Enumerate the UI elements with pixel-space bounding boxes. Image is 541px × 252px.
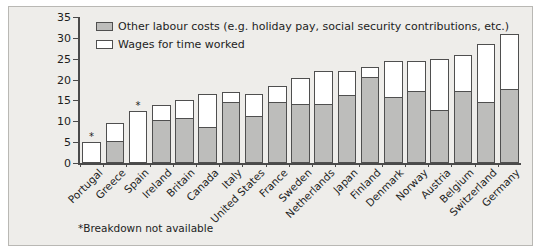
bar-segment-other-labour-costs xyxy=(384,98,403,163)
y-axis-tick-mark xyxy=(73,100,78,101)
y-axis-tick-mark xyxy=(73,163,78,164)
bar-segment-other-labour-costs xyxy=(198,128,217,163)
y-axis-tick-label: 30 xyxy=(57,32,71,43)
y-axis-tick-label: 20 xyxy=(57,74,71,85)
bar-segment-other-labour-costs xyxy=(477,103,496,163)
chart-figure: Other labour costs (e.g. holiday pay, so… xyxy=(0,0,541,252)
bar-segment-wages-for-time-worked xyxy=(407,61,426,92)
bar-sweden xyxy=(291,78,310,164)
x-axis-line xyxy=(78,163,521,165)
bar-segment-wages-for-time-worked xyxy=(338,71,357,96)
bar-netherlands xyxy=(314,71,333,163)
bar-segment-other-labour-costs xyxy=(407,92,426,163)
y-axis-tick-label: 35 xyxy=(57,12,71,23)
bar-segment-other-labour-costs xyxy=(106,142,125,163)
bar-denmark xyxy=(384,61,403,163)
bar-segment-other-labour-costs xyxy=(175,119,194,163)
bar-segment-other-labour-costs xyxy=(291,105,310,163)
no-breakdown-asterisk: * xyxy=(89,132,94,142)
bar-segment-total-no-breakdown xyxy=(82,142,101,163)
bar-segment-wages-for-time-worked xyxy=(500,34,519,90)
bar-belgium xyxy=(454,55,473,163)
bar-germany xyxy=(500,34,519,163)
bar-segment-other-labour-costs xyxy=(500,90,519,163)
bar-segment-wages-for-time-worked xyxy=(198,94,217,127)
bar-finland xyxy=(361,67,380,163)
bar-canada xyxy=(198,94,217,163)
chart-footnote: *Breakdown not available xyxy=(78,222,213,234)
bar-segment-total-no-breakdown xyxy=(129,111,148,163)
bar-series-group: ** xyxy=(80,17,521,163)
bar-segment-wages-for-time-worked xyxy=(245,94,264,117)
bar-segment-other-labour-costs xyxy=(430,111,449,163)
bar-segment-other-labour-costs xyxy=(361,78,380,164)
bar-segment-other-labour-costs xyxy=(222,103,241,163)
y-axis-tick-label: 0 xyxy=(64,158,71,169)
bar-segment-wages-for-time-worked xyxy=(268,86,287,103)
bar-segment-other-labour-costs xyxy=(454,92,473,163)
y-axis-tick-mark xyxy=(73,59,78,60)
bar-japan xyxy=(338,71,357,163)
y-axis-tick-label: 5 xyxy=(64,137,71,148)
bar-britain xyxy=(175,100,194,163)
bar-ireland xyxy=(152,105,171,163)
y-axis-tick-mark xyxy=(73,121,78,122)
bar-segment-wages-for-time-worked xyxy=(477,44,496,102)
bar-switzerland xyxy=(477,44,496,163)
y-axis-tick-mark xyxy=(73,38,78,39)
bar-france xyxy=(268,86,287,163)
bar-segment-wages-for-time-worked xyxy=(384,61,403,99)
bar-segment-wages-for-time-worked xyxy=(106,123,125,142)
bar-spain: * xyxy=(129,111,148,163)
bar-norway xyxy=(407,61,426,163)
bar-greece xyxy=(106,123,125,163)
bar-segment-wages-for-time-worked xyxy=(222,92,241,102)
bar-segment-other-labour-costs xyxy=(152,121,171,163)
y-axis-tick-label: 15 xyxy=(57,95,71,106)
y-axis-tick-label: 25 xyxy=(57,53,71,64)
bar-portugal: * xyxy=(82,142,101,163)
bar-united-states xyxy=(245,94,264,163)
bar-segment-wages-for-time-worked xyxy=(152,105,171,122)
bar-segment-wages-for-time-worked xyxy=(454,55,473,93)
y-axis-tick-mark xyxy=(73,142,78,143)
bar-austria xyxy=(430,59,449,163)
no-breakdown-asterisk: * xyxy=(136,101,141,111)
bar-segment-wages-for-time-worked xyxy=(314,71,333,104)
bar-segment-other-labour-costs xyxy=(268,103,287,163)
bar-segment-wages-for-time-worked xyxy=(361,67,380,77)
plot-area: 05101520253035 ** xyxy=(78,17,521,165)
y-axis-tick-mark xyxy=(73,17,78,18)
bar-segment-wages-for-time-worked xyxy=(175,100,194,119)
bar-segment-other-labour-costs xyxy=(338,96,357,163)
bar-segment-wages-for-time-worked xyxy=(430,59,449,111)
y-axis-tick-mark xyxy=(73,80,78,81)
bar-segment-other-labour-costs xyxy=(245,117,264,163)
y-axis-tick-label: 10 xyxy=(57,116,71,127)
bar-segment-wages-for-time-worked xyxy=(291,78,310,105)
bar-segment-other-labour-costs xyxy=(314,105,333,163)
bar-italy xyxy=(222,92,241,163)
x-axis-category-labels: PortugalGreeceSpainIrelandBritainCanadaI… xyxy=(78,167,521,227)
